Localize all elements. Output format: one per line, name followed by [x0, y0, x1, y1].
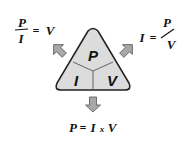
power-triangle: P I V [56, 29, 130, 91]
formula-triangle-diagram: P I V P I = V I = P V [0, 0, 184, 142]
formula-bottom-b: V [108, 120, 118, 135]
formula-right-numerator: P [163, 15, 172, 30]
arrow-up-left-icon [49, 40, 70, 61]
formula-bottom: P = I x V [69, 120, 118, 135]
formula-right-denominator: V [167, 37, 177, 52]
arrow-down-icon [86, 97, 101, 112]
formula-bottom-lhs: P [69, 120, 78, 135]
formula-bottom-a: I [89, 120, 96, 135]
fraction-bar [15, 29, 28, 30]
formula-left-numerator: P [18, 15, 27, 30]
formula-right-equals: = [150, 31, 157, 45]
formula-bottom-times: x [99, 124, 105, 134]
segment-p: P [88, 47, 99, 64]
formula-left-denominator: I [17, 31, 24, 46]
formula-right: I = P V [138, 15, 176, 52]
formula-right-lhs: I [138, 30, 145, 45]
formula-left-result: V [46, 23, 56, 38]
arrow-up-right-icon [117, 40, 138, 61]
formula-left: P I = V [15, 15, 56, 46]
formula-left-equals: = [33, 24, 40, 38]
formula-bottom-equals: = [80, 121, 87, 135]
